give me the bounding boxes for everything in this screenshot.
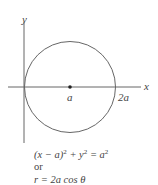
polar-equation: r = 2a cos θ <box>34 174 85 185</box>
x-axis-label: x <box>144 81 149 92</box>
cartesian-equation: (x − a)2 + y2 = a2 <box>34 149 108 161</box>
connector-text: or <box>34 161 43 173</box>
y-axis-label: y <box>22 14 27 25</box>
intercept-label: 2a <box>118 92 129 103</box>
center-label: a <box>67 92 73 103</box>
center-point <box>68 85 72 89</box>
eq-exp3: 2 <box>105 148 109 156</box>
polar-text: r = 2a cos θ <box>34 174 85 185</box>
eq-lhs: (x − a) <box>34 149 63 160</box>
eq-plus: + y <box>67 149 84 160</box>
eq-rhs: = a <box>87 149 105 160</box>
